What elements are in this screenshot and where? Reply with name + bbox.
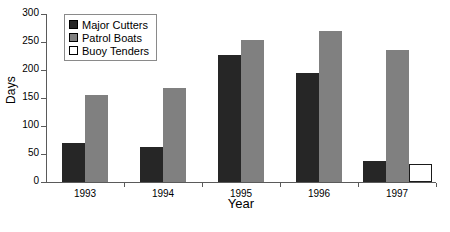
x-axis-separator-tick: [124, 183, 125, 187]
y-axis-tick-mark: [41, 182, 46, 183]
bar-patrol: [386, 50, 409, 182]
legend-item: Buoy Tenders: [69, 44, 149, 57]
x-axis-separator-tick: [202, 183, 203, 187]
y-axis-tick-label: 200: [22, 63, 39, 74]
y-axis-tick-label: 50: [28, 147, 39, 158]
bar-patrol: [85, 95, 108, 182]
bar-group-bars: [202, 14, 280, 182]
bar-major: [363, 161, 386, 182]
x-axis-separator-tick: [358, 183, 359, 187]
x-axis-line: [46, 182, 436, 183]
x-axis-separator-tick: [436, 183, 437, 187]
bar-group-bars: [280, 14, 358, 182]
bar-group: 1995: [202, 14, 280, 182]
legend-swatch-major: [69, 20, 78, 29]
x-axis-title: Year: [46, 196, 436, 211]
legend-item-label: Buoy Tenders: [82, 45, 149, 57]
bar-patrol: [319, 31, 342, 182]
legend-item: Patrol Boats: [69, 31, 149, 44]
bar-group-bars: [358, 14, 436, 182]
legend-item: Major Cutters: [69, 18, 149, 31]
bar-group: 1996: [280, 14, 358, 182]
bar-group: 1997: [358, 14, 436, 182]
bar-patrol: [163, 88, 186, 182]
legend-swatch-buoy: [69, 46, 78, 55]
y-axis-tick-label: 100: [22, 119, 39, 130]
bar-buoy: [409, 164, 432, 182]
bar-major: [296, 73, 319, 182]
bar-major: [62, 143, 85, 182]
chart-legend: Major CuttersPatrol BoatsBuoy Tenders: [64, 14, 157, 61]
y-axis-tick-label: 250: [22, 35, 39, 46]
legend-item-label: Patrol Boats: [82, 32, 142, 44]
x-axis-separator-tick: [280, 183, 281, 187]
legend-swatch-patrol: [69, 33, 78, 42]
y-axis-tick-label: 150: [22, 91, 39, 102]
bar-major: [218, 55, 241, 182]
y-axis-tick-label: 300: [22, 7, 39, 18]
y-axis-title: Days: [0, 0, 22, 180]
bar-patrol: [241, 40, 264, 182]
legend-item-label: Major Cutters: [82, 19, 148, 31]
bar-major: [140, 147, 163, 182]
y-axis-tick-label: 0: [33, 175, 39, 186]
y-axis-title-text: Days: [4, 76, 18, 104]
bar-chart: Days 050100150200250300 1993199419951996…: [0, 0, 450, 232]
x-axis-title-text: Year: [228, 196, 254, 211]
